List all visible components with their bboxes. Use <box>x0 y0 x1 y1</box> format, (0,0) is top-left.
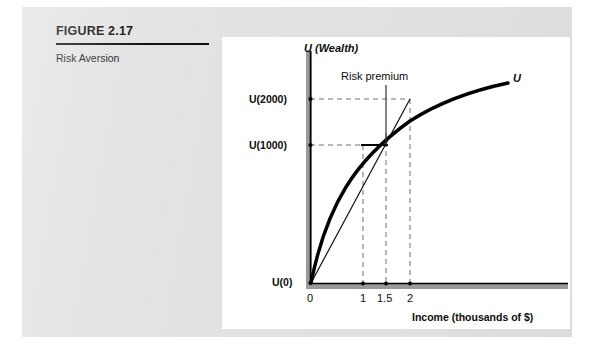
chart-panel: U (Wealth) U(2000) U(1000) U(0) 0 1 1.5 … <box>222 37 570 329</box>
tick-u1000 <box>308 143 312 147</box>
tick-x2 <box>408 282 412 286</box>
y-tick-label-u0: U(0) <box>272 277 292 288</box>
scanned-page: FIGURE 2.17 Risk Aversion <box>0 0 593 351</box>
figure-number: FIGURE 2.17 <box>56 24 216 39</box>
x-tick-label-0: 0 <box>307 293 313 304</box>
tick-x15 <box>384 282 388 286</box>
curve-label-u: U <box>513 73 521 84</box>
y-axis-label: U (Wealth) <box>304 43 358 54</box>
y-tick-label-u1000: U(1000) <box>249 140 287 151</box>
chord-line <box>311 99 410 283</box>
y-tick-label-u2000: U(2000) <box>249 94 287 105</box>
x-tick-label-1: 1 <box>360 293 366 304</box>
figure-title: Risk Aversion <box>56 52 216 65</box>
figure-block: FIGURE 2.17 Risk Aversion <box>22 7 572 337</box>
figure-caption: FIGURE 2.17 Risk Aversion <box>56 24 216 65</box>
tick-u2000 <box>308 97 312 101</box>
x-tick-label-2: 2 <box>407 293 413 304</box>
risk-premium-annotation: Risk premium <box>341 71 408 82</box>
x-axis-label: Income (thousands of $) <box>412 312 533 323</box>
y-axis-label-text: U (Wealth) <box>304 42 358 54</box>
x-tick-label-15: 1.5 <box>377 293 392 304</box>
tick-x1 <box>361 282 365 286</box>
caption-divider <box>56 43 209 45</box>
tick-u0 <box>308 281 312 285</box>
